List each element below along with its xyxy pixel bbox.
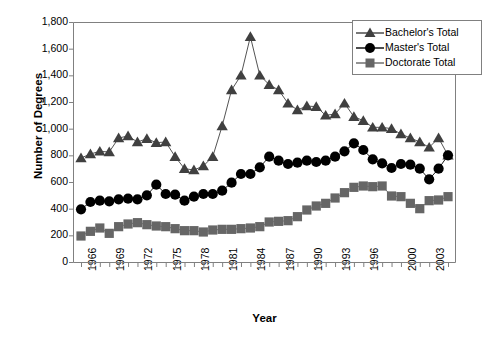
data-point-square <box>161 222 170 231</box>
data-point-square <box>95 223 104 232</box>
data-point-circle <box>85 197 95 207</box>
data-point-triangle <box>292 105 303 115</box>
y-tick-label: 1,000 <box>24 123 68 133</box>
y-tick-label: 200 <box>24 229 68 239</box>
data-point-square <box>236 224 245 233</box>
data-point-triangle <box>301 101 312 111</box>
data-point-square <box>218 225 227 234</box>
data-point-square <box>359 181 368 190</box>
y-tick-label: 1,200 <box>24 96 68 106</box>
data-point-circle <box>424 174 434 184</box>
data-point-square <box>312 201 321 210</box>
legend-label: Bachelor's Total <box>385 27 459 38</box>
series-2 <box>76 138 453 214</box>
data-point-circle <box>396 159 406 169</box>
data-point-square <box>283 216 292 225</box>
series-3 <box>76 181 452 240</box>
y-tick-label: 600 <box>24 176 68 186</box>
data-point-circle <box>161 189 171 199</box>
data-point-square <box>246 223 255 232</box>
data-point-triangle <box>358 115 369 125</box>
data-point-circle <box>198 189 208 199</box>
data-point-square <box>387 191 396 200</box>
data-point-square <box>255 222 264 231</box>
chart-legend: Bachelor's Total Master's Total Doctorat… <box>352 20 482 75</box>
data-point-square <box>142 220 151 229</box>
data-point-square <box>340 188 349 197</box>
data-point-circle <box>236 169 246 179</box>
legend-item[interactable]: Bachelor's Total <box>356 25 477 40</box>
y-tick-label: 0 <box>24 256 68 266</box>
data-point-square <box>274 217 283 226</box>
data-point-triangle <box>245 31 256 41</box>
chart-figure: Number of Degrees Year 1,8001,6001,4001,… <box>0 0 496 340</box>
data-point-square <box>86 227 95 236</box>
data-point-circle <box>311 157 321 167</box>
data-point-triangle <box>254 70 265 80</box>
data-point-circle <box>142 190 152 200</box>
data-point-square <box>105 229 114 238</box>
data-point-square <box>302 205 311 214</box>
data-point-circle <box>321 156 331 166</box>
data-point-triangle <box>122 131 133 141</box>
legend-item[interactable]: Doctorate Total <box>356 55 477 70</box>
data-point-square <box>189 226 198 235</box>
data-point-circle <box>217 186 227 196</box>
data-point-circle <box>283 159 293 169</box>
data-point-triangle <box>132 137 143 147</box>
data-point-triangle <box>179 163 190 173</box>
data-point-circle <box>226 178 236 188</box>
data-point-triangle <box>414 137 425 147</box>
data-point-circle <box>302 156 312 166</box>
data-point-triangle <box>207 151 218 161</box>
data-point-triangle <box>339 98 350 108</box>
data-point-circle <box>368 154 378 164</box>
data-point-circle <box>245 169 255 179</box>
data-point-square <box>265 217 274 226</box>
data-point-circle <box>386 163 396 173</box>
data-point-circle <box>274 156 284 166</box>
data-point-circle <box>405 160 415 170</box>
y-axis-tick-labels: 1,8001,6001,4001,2001,0008006004002000 <box>18 0 68 340</box>
data-point-circle <box>358 145 368 155</box>
data-point-circle <box>433 164 443 174</box>
data-point-square <box>171 224 180 233</box>
legend-item[interactable]: Master's Total <box>356 40 477 55</box>
legend-marker-circle-icon <box>356 41 384 55</box>
data-point-triangle <box>75 153 86 163</box>
data-point-square <box>208 225 217 234</box>
y-tick-label: 1,400 <box>24 69 68 79</box>
data-point-triangle <box>169 151 180 161</box>
data-point-circle <box>76 204 86 214</box>
data-point-square <box>199 227 208 236</box>
data-point-triangle <box>94 146 105 156</box>
data-point-circle <box>104 196 114 206</box>
data-point-square <box>133 218 142 227</box>
data-point-square <box>406 199 415 208</box>
data-point-triangle <box>141 133 152 143</box>
data-point-circle <box>170 190 180 200</box>
data-point-circle <box>208 189 218 199</box>
data-point-circle <box>377 158 387 168</box>
data-point-square <box>434 195 443 204</box>
data-point-circle <box>95 196 105 206</box>
y-tick-label: 400 <box>24 203 68 213</box>
x-axis-title: Year <box>73 312 456 324</box>
data-point-square <box>293 212 302 221</box>
data-point-circle <box>132 194 142 204</box>
data-point-circle <box>114 194 124 204</box>
y-tick-label: 1,600 <box>24 43 68 53</box>
data-point-square <box>378 181 387 190</box>
data-point-square <box>415 204 424 213</box>
data-point-square <box>443 192 452 201</box>
data-point-square <box>321 199 330 208</box>
data-point-triangle <box>348 111 359 121</box>
data-point-circle <box>443 150 453 160</box>
data-point-square <box>227 225 236 234</box>
data-point-triangle <box>216 121 227 131</box>
data-point-square <box>114 222 123 231</box>
y-tick-label: 1,800 <box>24 16 68 26</box>
data-point-square <box>330 193 339 202</box>
data-point-circle <box>151 180 161 190</box>
data-point-triangle <box>405 133 416 143</box>
